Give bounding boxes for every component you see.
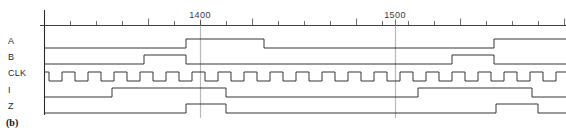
- waveform-canvas: 14001500: [0, 0, 566, 133]
- signal-trace-group: [44, 39, 566, 113]
- time-label-group: 14001500: [189, 10, 406, 26]
- signal-trace-clk: [44, 72, 566, 81]
- signal-trace-b: [44, 55, 566, 64]
- timing-diagram-figure: A B CLK I Z (b) 14001500: [0, 0, 566, 133]
- time-axis-label-1: 1400: [189, 10, 211, 20]
- signal-trace-i: [44, 88, 566, 97]
- time-axis-label-2: 1500: [384, 10, 406, 20]
- signal-trace-z: [44, 104, 566, 113]
- signal-trace-a: [44, 39, 566, 48]
- axis-tick-group: [45, 11, 565, 26]
